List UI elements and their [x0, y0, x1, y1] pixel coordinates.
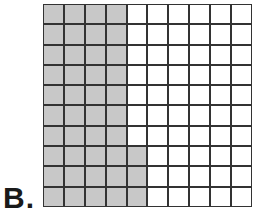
- grid-cell-shaded: [44, 147, 63, 165]
- grid-cell-empty: [190, 147, 209, 165]
- grid-cell-empty: [232, 46, 251, 64]
- grid-cell-shaded: [107, 86, 126, 104]
- grid-cell-shaded: [86, 66, 105, 84]
- grid-cell-empty: [169, 167, 188, 185]
- grid-cell-shaded: [86, 25, 105, 43]
- grid-cell-shaded: [44, 188, 63, 206]
- grid-cell-empty: [169, 66, 188, 84]
- grid-cell-empty: [211, 147, 230, 165]
- grid-cell-empty: [190, 188, 209, 206]
- grid-cell-shaded: [86, 167, 105, 185]
- grid-cell-empty: [169, 127, 188, 145]
- grid-cell-empty: [211, 127, 230, 145]
- grid-cell-shaded: [44, 86, 63, 104]
- grid-cell-empty: [211, 5, 230, 23]
- grid-cell-empty: [211, 46, 230, 64]
- grid-cell-shaded: [86, 106, 105, 124]
- grid-cell-shaded: [44, 25, 63, 43]
- grid-cell-shaded: [44, 46, 63, 64]
- grid-cell-shaded: [65, 106, 84, 124]
- grid-cell-shaded: [86, 5, 105, 23]
- grid-cell-shaded: [86, 86, 105, 104]
- grid-cell-empty: [232, 127, 251, 145]
- grid-cell-empty: [128, 5, 147, 23]
- grid-cell-shaded: [86, 188, 105, 206]
- grid-cell-shaded: [65, 66, 84, 84]
- grid-cell-shaded: [44, 66, 63, 84]
- grid-cell-empty: [169, 188, 188, 206]
- grid-cell-empty: [211, 86, 230, 104]
- grid-cell-empty: [190, 5, 209, 23]
- grid-cell-empty: [148, 86, 167, 104]
- grid-cell-shaded: [44, 106, 63, 124]
- grid-cell-empty: [232, 147, 251, 165]
- grid-cell-empty: [169, 147, 188, 165]
- grid-cell-shaded: [65, 127, 84, 145]
- grid-cell-empty: [190, 127, 209, 145]
- grid-cell-shaded: [128, 147, 147, 165]
- grid-cell-empty: [190, 106, 209, 124]
- grid-cell-shaded: [65, 5, 84, 23]
- grid-cell-empty: [232, 86, 251, 104]
- grid-cell-empty: [128, 46, 147, 64]
- grid-cell-shaded: [128, 188, 147, 206]
- grid-cell-empty: [148, 167, 167, 185]
- grid-cell-shaded: [65, 147, 84, 165]
- grid-cell-shaded: [44, 127, 63, 145]
- grid-cell-shaded: [65, 25, 84, 43]
- grid-cell-shaded: [65, 167, 84, 185]
- grid-cell-empty: [148, 25, 167, 43]
- grid-cell-empty: [128, 106, 147, 124]
- hundred-grid: [43, 4, 252, 207]
- grid-cell-empty: [169, 86, 188, 104]
- grid-cell-empty: [148, 188, 167, 206]
- grid-cell-empty: [128, 127, 147, 145]
- grid-cell-shaded: [107, 167, 126, 185]
- option-label: B.: [3, 183, 35, 213]
- grid-cell-empty: [148, 127, 167, 145]
- grid-cell-empty: [148, 106, 167, 124]
- grid-cell-empty: [148, 147, 167, 165]
- grid-cell-empty: [128, 86, 147, 104]
- grid-cell-empty: [190, 25, 209, 43]
- grid-cell-shaded: [107, 106, 126, 124]
- grid-cell-empty: [148, 46, 167, 64]
- grid-cell-shaded: [107, 66, 126, 84]
- grid-cell-empty: [232, 188, 251, 206]
- grid-cell-empty: [211, 106, 230, 124]
- grid-cell-empty: [232, 25, 251, 43]
- grid-cell-empty: [232, 5, 251, 23]
- grid-cell-empty: [211, 25, 230, 43]
- grid-cell-empty: [232, 167, 251, 185]
- grid-cell-empty: [148, 5, 167, 23]
- grid-cell-empty: [211, 188, 230, 206]
- grid-cell-shaded: [86, 147, 105, 165]
- grid-cell-shaded: [107, 127, 126, 145]
- grid-cell-shaded: [107, 147, 126, 165]
- grid-cell-shaded: [65, 46, 84, 64]
- grid-cell-shaded: [65, 188, 84, 206]
- grid-cell-shaded: [128, 167, 147, 185]
- grid-cell-empty: [128, 25, 147, 43]
- grid-cell-empty: [190, 167, 209, 185]
- grid-cell-empty: [128, 66, 147, 84]
- grid-cell-empty: [232, 66, 251, 84]
- grid-cell-shaded: [107, 25, 126, 43]
- grid-cell-empty: [211, 66, 230, 84]
- grid-cell-empty: [232, 106, 251, 124]
- grid-cell-shaded: [86, 46, 105, 64]
- grid-cell-shaded: [44, 167, 63, 185]
- grid-cell-empty: [190, 66, 209, 84]
- grid-cell-shaded: [107, 188, 126, 206]
- grid-cell-empty: [211, 167, 230, 185]
- grid-cell-empty: [148, 66, 167, 84]
- grid-cell-empty: [169, 25, 188, 43]
- grid-cell-empty: [190, 46, 209, 64]
- grid-cell-empty: [169, 106, 188, 124]
- grid-cell-shaded: [107, 46, 126, 64]
- grid-cell-shaded: [44, 5, 63, 23]
- grid-cell-empty: [190, 86, 209, 104]
- grid-cell-empty: [169, 5, 188, 23]
- grid-cell-shaded: [65, 86, 84, 104]
- grid-cell-shaded: [86, 127, 105, 145]
